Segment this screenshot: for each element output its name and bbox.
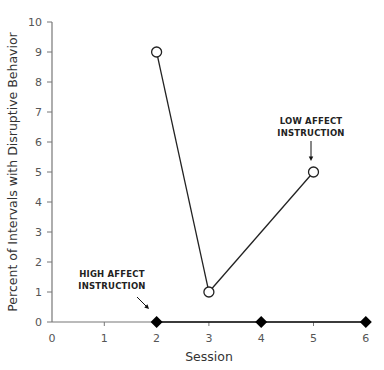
x-tick-label: 0 bbox=[49, 332, 56, 345]
y-tick-label: 4 bbox=[35, 196, 42, 209]
arrow-head-icon bbox=[309, 157, 314, 161]
y-tick-label: 2 bbox=[35, 256, 42, 269]
y-tick-label: 6 bbox=[35, 136, 42, 149]
line-chart: 0123456789100123456 HIGH AFFECTINSTRUCTI… bbox=[0, 0, 384, 370]
y-tick-label: 1 bbox=[35, 286, 42, 299]
x-tick-label: 2 bbox=[153, 332, 160, 345]
diamond-marker bbox=[255, 316, 267, 328]
y-tick-label: 5 bbox=[35, 166, 42, 179]
annotations: HIGH AFFECTINSTRUCTIONLOW AFFECTINSTRUCT… bbox=[78, 116, 344, 309]
y-tick-label: 8 bbox=[35, 76, 42, 89]
y-axis-title: Percent of Intervals with Disruptive Beh… bbox=[5, 31, 20, 311]
x-tick-label: 3 bbox=[205, 332, 212, 345]
annotation-arrow-high-affect bbox=[137, 297, 147, 307]
circle-marker bbox=[152, 47, 162, 57]
y-tick-label: 0 bbox=[35, 316, 42, 329]
x-axis-title: Session bbox=[185, 349, 233, 364]
diamond-marker bbox=[151, 316, 163, 328]
y-tick-label: 9 bbox=[35, 46, 42, 59]
annotation-low-affect-line2: INSTRUCTION bbox=[277, 128, 344, 138]
circle-marker bbox=[309, 167, 319, 177]
y-tick-label: 3 bbox=[35, 226, 42, 239]
series-line-low-affect bbox=[158, 57, 208, 287]
x-tick-label: 6 bbox=[362, 332, 369, 345]
series-line-low-affect bbox=[212, 176, 310, 288]
x-tick-label: 5 bbox=[310, 332, 317, 345]
annotation-high-affect-line1: HIGH AFFECT bbox=[79, 269, 145, 279]
axes: 0123456789100123456 bbox=[28, 16, 370, 345]
x-tick-label: 1 bbox=[101, 332, 108, 345]
y-tick-label: 7 bbox=[35, 106, 42, 119]
x-tick-label: 4 bbox=[258, 332, 265, 345]
annotation-low-affect-line1: LOW AFFECT bbox=[280, 116, 343, 126]
annotation-high-affect-line2: INSTRUCTION bbox=[78, 281, 145, 291]
series-layer bbox=[151, 47, 372, 328]
y-tick-label: 10 bbox=[28, 16, 42, 29]
circle-marker bbox=[204, 287, 214, 297]
diamond-marker bbox=[360, 316, 372, 328]
